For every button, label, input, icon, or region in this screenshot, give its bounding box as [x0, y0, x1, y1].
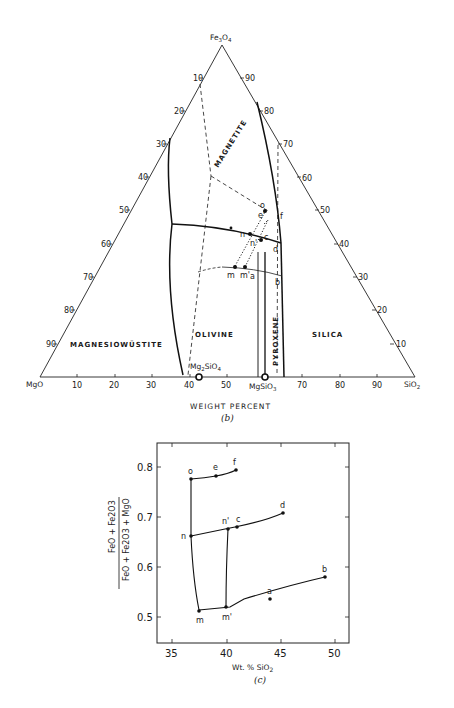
svg-text:20: 20 — [109, 381, 119, 390]
svg-text:e': e' — [258, 211, 265, 220]
label-mgsio3: MgSiO3 — [249, 382, 277, 392]
svg-text:80: 80 — [335, 381, 345, 390]
weight-percent-label: WEIGHT PERCENT — [190, 402, 271, 411]
svg-text:90: 90 — [46, 340, 56, 349]
svg-text:f: f — [233, 458, 236, 467]
svg-text:FeO + Fe2O3 + MgO: FeO + Fe2O3 + MgO — [122, 498, 131, 581]
ternary-frame — [40, 45, 415, 377]
svg-text:50: 50 — [320, 206, 330, 215]
svg-text:o: o — [188, 467, 193, 476]
svg-text:30: 30 — [146, 381, 156, 390]
svg-text:80: 80 — [264, 107, 274, 116]
svg-text:40: 40 — [138, 173, 148, 182]
y-tick-0.7: 0.7 — [137, 512, 153, 523]
svg-text:80: 80 — [64, 306, 74, 315]
svg-text:m: m — [196, 616, 204, 625]
x-tick-35: 35 — [165, 648, 178, 659]
phase-olivine: OLIVINE — [195, 331, 234, 339]
x-tick-45: 45 — [274, 648, 287, 659]
svg-text:b: b — [275, 278, 280, 287]
svg-text:c: c — [264, 233, 268, 242]
left-edge-ticks: 10 20 30 40 50 60 70 80 90 — [46, 74, 203, 349]
svg-text:c: c — [236, 515, 240, 524]
svg-text:f: f — [280, 212, 283, 221]
bottom-edge-ticks: 10 20 30 40 50 70 80 90 — [72, 374, 382, 390]
phase-magnesiowustite: MAGNESIOWÜSTITE — [70, 340, 163, 349]
x-tick-40: 40 — [220, 648, 233, 659]
svg-text:70: 70 — [297, 381, 307, 390]
chart-point-labels: o e f n n' c d m m' a b — [181, 458, 327, 625]
caption-b: (b) — [221, 413, 234, 423]
vertex-fe3o4: Fe3O4 — [210, 33, 232, 43]
y-tick-0.6: 0.6 — [137, 562, 153, 573]
y-tick-0.8: 0.8 — [137, 462, 153, 473]
x-tick-50: 50 — [328, 648, 341, 659]
svg-text:90: 90 — [372, 381, 382, 390]
svg-text:e: e — [213, 463, 218, 472]
svg-text:a: a — [250, 272, 255, 281]
ternary-diagram: Fe3O4 MgO SiO2 10 20 30 40 50 60 70 80 9… — [26, 33, 420, 423]
svg-text:90: 90 — [245, 74, 255, 83]
svg-text:40: 40 — [184, 381, 194, 390]
figure-canvas: Fe3O4 MgO SiO2 10 20 30 40 50 60 70 80 9… — [0, 0, 454, 708]
svg-text:m: m — [227, 271, 235, 280]
marker-mg2sio4 — [196, 374, 202, 380]
svg-text:10: 10 — [193, 74, 203, 83]
svg-text:o: o — [260, 201, 265, 210]
svg-text:b: b — [322, 565, 327, 574]
phase-magnetite: MAGNETITE — [213, 118, 249, 169]
svg-text:a: a — [267, 587, 272, 596]
svg-text:70: 70 — [83, 273, 93, 282]
chart-points — [189, 468, 327, 613]
svg-text:40: 40 — [339, 240, 349, 249]
vertex-sio2: SiO2 — [404, 380, 420, 390]
marker-mgsio3 — [262, 374, 268, 380]
svg-text:m': m' — [222, 613, 232, 622]
y-tick-0.5: 0.5 — [137, 612, 153, 623]
svg-text:20: 20 — [174, 107, 184, 116]
svg-text:n': n' — [222, 517, 229, 526]
svg-text:30: 30 — [156, 140, 166, 149]
svg-text:50: 50 — [119, 206, 129, 215]
vertex-mgo: MgO — [26, 380, 43, 389]
svg-text:n': n' — [250, 239, 257, 248]
svg-text:n: n — [240, 230, 245, 239]
svg-text:30: 30 — [358, 273, 368, 282]
svg-text:d: d — [280, 501, 285, 510]
chart-curves — [191, 470, 325, 610]
phase-silica: SILICA — [312, 331, 343, 339]
chart-c: 0.8 0.7 0.6 0.5 35 40 45 50 — [108, 443, 349, 685]
chart-frame — [157, 443, 349, 643]
label-mg2sio4: Mg2SiO4 — [190, 362, 221, 372]
svg-text:m': m' — [240, 271, 250, 280]
svg-text:n: n — [181, 532, 186, 541]
y-axis-label: FeO + Fe2O3 FeO + Fe2O3 + MgO — [108, 497, 131, 589]
svg-text:60: 60 — [101, 240, 111, 249]
svg-text:70: 70 — [283, 140, 293, 149]
x-axis-label: Wt. % SiO2 — [232, 663, 273, 673]
caption-c: (c) — [254, 675, 267, 685]
svg-text:10: 10 — [396, 340, 406, 349]
svg-text:10: 10 — [72, 381, 82, 390]
svg-text:d: d — [273, 245, 278, 254]
svg-text:50: 50 — [221, 381, 231, 390]
phase-pyroxene: PYROXENE — [272, 316, 280, 366]
svg-text:60: 60 — [302, 174, 312, 183]
svg-text:FeO + Fe2O3: FeO + Fe2O3 — [108, 500, 117, 553]
svg-text:20: 20 — [377, 306, 387, 315]
